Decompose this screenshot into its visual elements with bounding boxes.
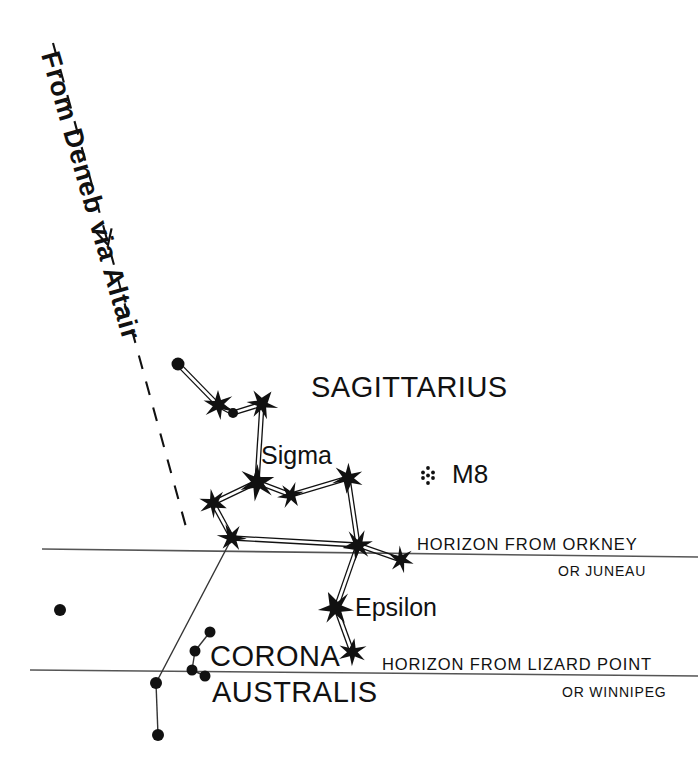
horizon-label-lizard-point: HORIZON FROM LIZARD POINT xyxy=(382,655,652,674)
bright-star xyxy=(241,382,284,425)
constellation-line xyxy=(177,363,220,407)
faint-star-dot xyxy=(190,646,201,657)
star-chart: From Deneb via Altair SAGITTARIUS Sigma … xyxy=(0,0,698,767)
horizon-label-winnipeg: OR WINNIPEG xyxy=(562,684,666,700)
cluster-icon xyxy=(421,466,435,485)
constellation-label-australis: AUSTRALIS xyxy=(212,676,378,709)
deep-sky-objects-group xyxy=(421,466,435,485)
faint-star-dot xyxy=(205,627,216,638)
star-label-epsilon: Epsilon xyxy=(355,593,437,622)
bright-star xyxy=(204,390,233,420)
faint-star-dot xyxy=(172,358,185,371)
faint-star-dot xyxy=(152,729,164,741)
faint-star-dot xyxy=(54,604,66,616)
bright-star xyxy=(313,584,360,631)
bright-star xyxy=(195,485,232,522)
faint-star-dot xyxy=(187,665,198,676)
bright-star xyxy=(273,477,308,513)
faint-star-dot xyxy=(200,671,211,682)
constellation-label-sagittarius: SAGITTARIUS xyxy=(311,371,508,404)
deep-sky-label-m8: M8 xyxy=(452,459,488,490)
constellation-line xyxy=(156,683,158,735)
bright-star xyxy=(331,461,364,495)
horizon-label-orkney: HORIZON FROM ORKNEY xyxy=(417,535,638,554)
constellation-label-corona: CORONA xyxy=(210,640,340,673)
horizon-label-juneau: OR JUNEAU xyxy=(558,563,646,579)
star-label-sigma: Sigma xyxy=(261,441,332,470)
faint-star-dot xyxy=(150,677,162,689)
constellation-line xyxy=(232,536,358,547)
bright-star xyxy=(384,543,419,577)
bright-stars-group xyxy=(195,382,419,668)
bright-star xyxy=(336,636,368,668)
